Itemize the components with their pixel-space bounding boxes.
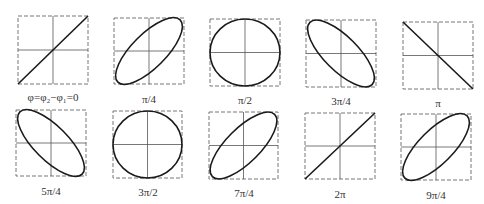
- panel-phase-3pi-4: 3π/4: [305, 19, 377, 109]
- lissajous-plot-ellipse-positive: [208, 111, 280, 181]
- phase-label: 5π/4: [0, 185, 107, 197]
- lissajous-plot-circle: [209, 18, 281, 88]
- lissajous-plot-line-positive: [17, 15, 89, 85]
- lissajous-plot-ellipse-positive: [113, 17, 185, 87]
- panel-phase-0: φ=φ₂−φ₁=0: [17, 15, 89, 105]
- panel-phase-7pi-4: 7π/4: [208, 111, 280, 201]
- panel-phase-pi: π: [402, 21, 474, 111]
- lissajous-plot-ellipse-negative: [305, 19, 377, 89]
- lissajous-plot-line-positive: [304, 112, 376, 182]
- panel-phase-pi-2: π/2: [209, 18, 281, 108]
- lissajous-plot-line-negative: [402, 21, 474, 91]
- panel-phase-pi-4: π/4: [113, 17, 185, 107]
- panel-phase-5pi-4: 5π/4: [15, 109, 87, 199]
- phase-label: 3π/4: [285, 95, 397, 107]
- lissajous-plot-circle: [112, 110, 184, 180]
- lissajous-plot-ellipse-negative: [15, 109, 87, 179]
- panel-phase-3pi-2: 3π/2: [112, 110, 184, 200]
- phase-label: π: [382, 97, 484, 109]
- panel-phase-2pi: 2π: [304, 112, 376, 202]
- panel-phase-9pi-4: 9π/4: [400, 113, 472, 203]
- lissajous-plot-ellipse-positive: [400, 113, 472, 183]
- phase-label: 9π/4: [380, 189, 484, 201]
